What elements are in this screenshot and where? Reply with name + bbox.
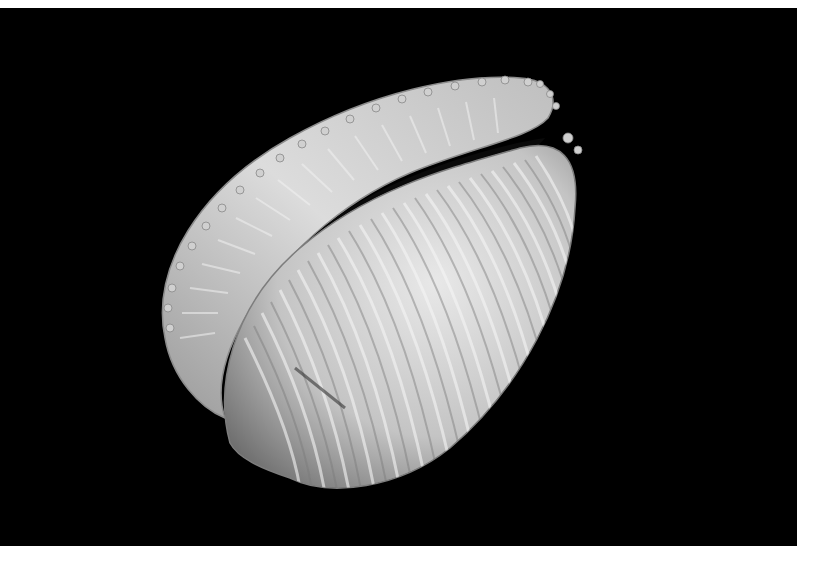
shell-photograph: Close-up photograph of a white ribbed co… [0,8,797,546]
shell-illustration [0,8,797,546]
